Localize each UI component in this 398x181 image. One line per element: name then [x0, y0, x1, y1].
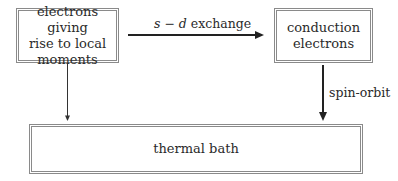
sd-label-d: d: [179, 16, 187, 31]
sd-exchange-label: s − d exchange: [154, 17, 251, 31]
spin-orbit-label: spin-orbit: [329, 86, 390, 100]
spin-orbit-arrow: [319, 65, 327, 121]
sd-label-minus: −: [160, 16, 178, 31]
sd-label-exchange: exchange: [187, 16, 251, 31]
local-to-bath-arrow: [65, 64, 70, 121]
sd-exchange-arrow: [128, 31, 264, 39]
